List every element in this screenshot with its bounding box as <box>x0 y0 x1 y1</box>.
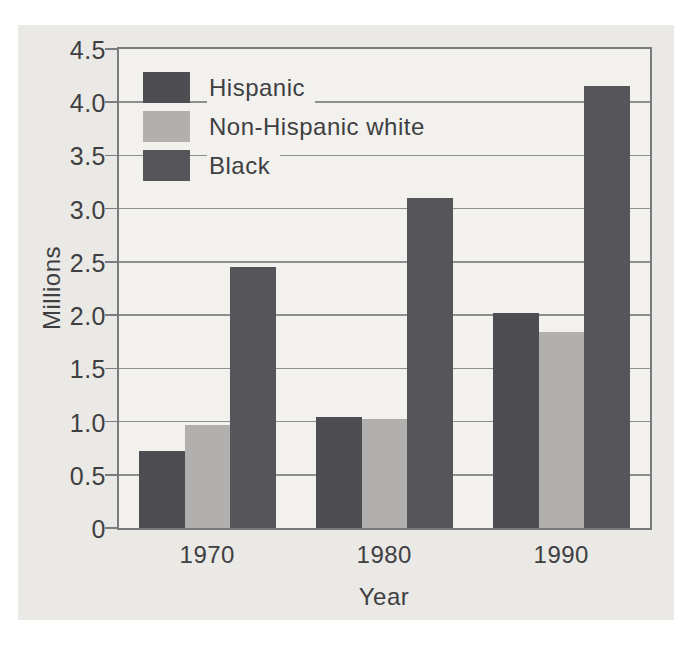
y-tick-2.5 <box>105 261 118 263</box>
y-tick-label-3.5: 3.5 <box>36 142 106 170</box>
legend-swatch-black <box>143 150 190 181</box>
y-tick-label-1.0: 1.0 <box>36 409 106 437</box>
y-tick-label-2.0: 2.0 <box>36 302 106 330</box>
legend-swatch-non-hispanic-white <box>143 111 190 142</box>
x-tick-label-1980: 1980 <box>324 541 444 569</box>
y-tick-3.0 <box>105 208 118 210</box>
y-tick-label-2.5: 2.5 <box>36 249 106 277</box>
y-tick-4.0 <box>105 101 118 103</box>
plot-area: HispanicNon-Hispanic whiteBlack <box>117 47 652 530</box>
legend-label-black: Black <box>207 150 280 181</box>
y-tick-0.5 <box>105 474 118 476</box>
x-axis-title: Year <box>324 583 444 611</box>
legend-swatch-hispanic <box>143 72 190 103</box>
y-tick-label-0: 0 <box>36 515 106 543</box>
y-tick-3.5 <box>105 155 118 157</box>
y-tick-label-4.5: 4.5 <box>36 36 106 64</box>
y-tick-4.5 <box>105 48 118 50</box>
y-tick-label-0.5: 0.5 <box>36 462 106 490</box>
y-tick-1.5 <box>105 368 118 370</box>
y-tick-1.0 <box>105 421 118 423</box>
y-tick-label-1.5: 1.5 <box>36 355 106 383</box>
y-tick-label-4.0: 4.0 <box>36 89 106 117</box>
legend-label-non-hispanic-white: Non-Hispanic white <box>207 111 435 142</box>
legend-label-hispanic: Hispanic <box>207 72 315 103</box>
legend: HispanicNon-Hispanic whiteBlack <box>119 49 650 528</box>
y-tick-2.0 <box>105 314 118 316</box>
figure-panel: Millions HispanicNon-Hispanic whiteBlack… <box>18 25 674 620</box>
x-tick-label-1970: 1970 <box>147 541 267 569</box>
y-tick-label-3.0: 3.0 <box>36 196 106 224</box>
y-tick-0 <box>105 527 118 529</box>
x-tick-label-1990: 1990 <box>501 541 621 569</box>
screenshot-root: Millions HispanicNon-Hispanic whiteBlack… <box>0 0 685 647</box>
